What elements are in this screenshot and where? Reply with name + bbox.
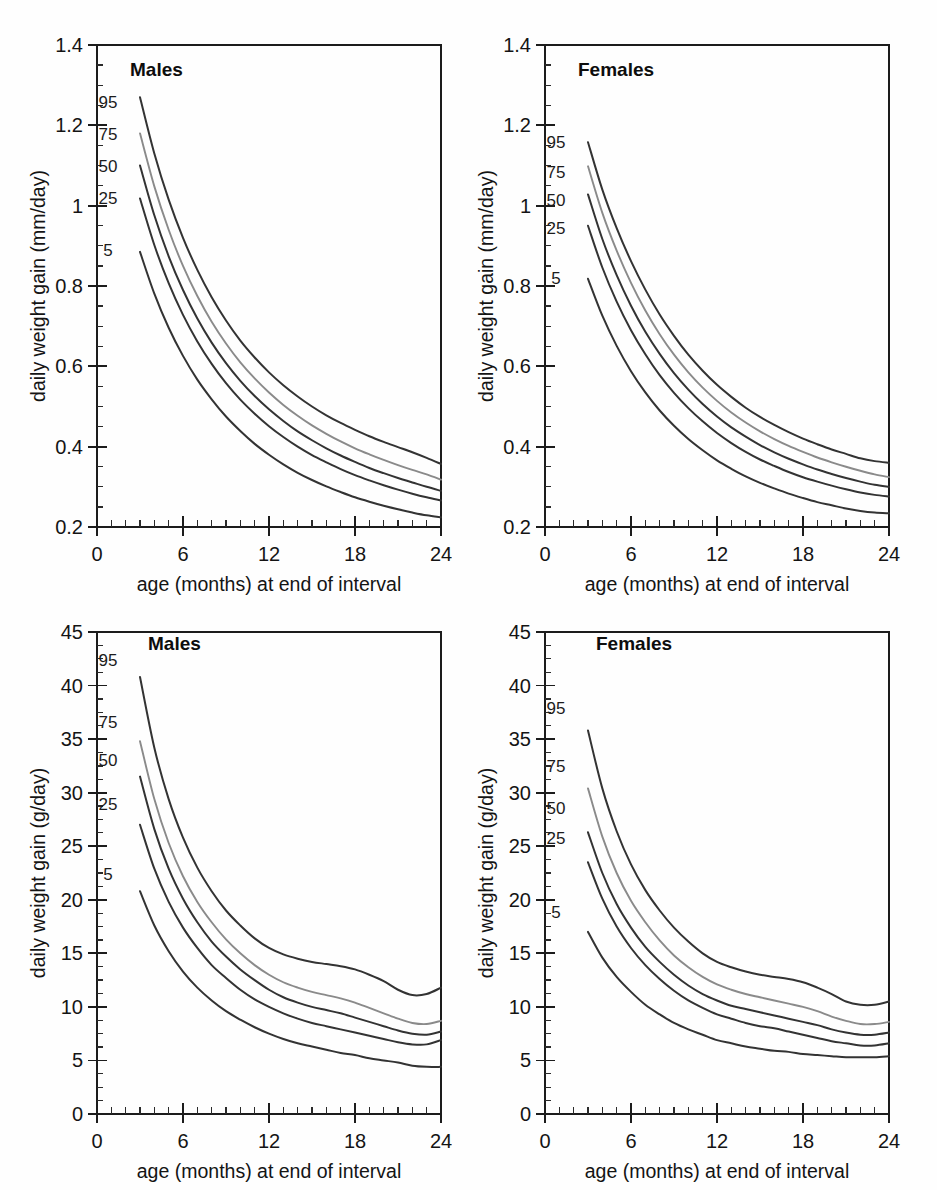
y-tick-label: 0.4 [55,436,83,458]
x-axis-major-ticks [97,1103,441,1123]
curve-label-p5: 5 [103,241,112,260]
y-tick-label: 35 [509,728,531,750]
series-line-p75 [140,741,441,1024]
y-axis-tick-labels: 051015202530354045 [61,621,83,1125]
x-axis-title: age (months) at end of interval [585,1160,849,1182]
y-axis-title: daily weight gain (mm/day) [475,170,497,402]
x-tick-label: 0 [91,543,102,565]
y-axis-tick-labels: 0.20.40.60.811.21.4 [55,34,83,538]
x-tick-label: 0 [539,1130,550,1152]
y-tick-label: 25 [509,835,531,857]
y-tick-label: 1.4 [503,34,531,56]
x-tick-label: 18 [344,1130,366,1152]
series-line-p50 [588,194,889,486]
panel-title: Females [578,59,654,80]
curve-label-p75: 75 [547,163,566,182]
curve-label-p50: 50 [547,799,566,818]
percentile-labels: 957550255 [99,93,118,260]
y-tick-label: 45 [509,621,531,643]
curve-label-p50: 50 [99,157,118,176]
y-axis-title: daily weight gain (g/day) [27,768,49,978]
x-tick-label: 24 [430,1130,452,1152]
curve-label-p95: 95 [99,93,118,112]
curve-label-p25: 25 [547,219,566,238]
x-tick-label: 6 [177,543,188,565]
y-tick-label: 5 [72,1049,83,1071]
panel-title: Males [130,59,183,80]
y-tick-label: 0.2 [503,516,531,538]
y-axis-title: daily weight gain (g/day) [475,768,497,978]
y-tick-label: 40 [509,675,531,697]
panel-title: Males [148,633,201,654]
series-line-p50 [588,832,889,1035]
series-line-p50 [140,777,441,1035]
x-axis-tick-labels: 06121824 [91,1130,452,1152]
y-tick-label: 30 [509,782,531,804]
curve-label-p50: 50 [547,191,566,210]
curve-label-p95: 95 [99,651,118,670]
y-tick-label: 0.6 [503,355,531,377]
curve-label-p75: 75 [547,757,566,776]
curve-label-p25: 25 [99,189,118,208]
y-tick-label: 0.8 [503,275,531,297]
y-tick-label: 0.2 [55,516,83,538]
y-tick-label: 5 [520,1049,531,1071]
x-tick-label: 24 [430,543,452,565]
curve-label-p25: 25 [547,829,566,848]
y-tick-label: 10 [509,996,531,1018]
x-tick-label: 18 [792,1130,814,1152]
y-tick-label: 0.6 [55,355,83,377]
series-group [140,97,441,517]
panel-title: Females [596,633,672,654]
y-tick-label: 0 [72,1103,83,1125]
y-tick-label: 1 [72,195,83,217]
curve-label-p5: 5 [103,865,112,884]
curve-label-p50: 50 [99,751,118,770]
panel-males-g-per-day: 05101520253035404506121824957550255Males… [0,588,452,1183]
y-tick-label: 15 [509,942,531,964]
x-tick-label: 6 [625,543,636,565]
curve-label-p75: 75 [99,713,118,732]
y-tick-label: 40 [61,675,83,697]
x-tick-label: 0 [539,543,550,565]
y-axis-tick-labels: 051015202530354045 [509,621,531,1125]
curve-label-p25: 25 [99,795,118,814]
x-tick-label: 24 [878,1130,900,1152]
chart-top-left: 0.20.40.60.811.21.406121824957550255Male… [0,0,452,595]
x-axis-tick-labels: 06121824 [91,543,452,565]
series-line-p95 [588,142,889,463]
y-tick-label: 1.2 [503,114,531,136]
y-tick-label: 45 [61,621,83,643]
panel-males-mm-per-day: 0.20.40.60.811.21.406121824957550255Male… [0,0,452,595]
x-tick-label: 12 [706,1130,728,1152]
series-group [588,731,889,1058]
panel-females-g-per-day: 05101520253035404506121824957550255Femal… [452,588,904,1183]
series-line-p75 [588,166,889,477]
panel-females-mm-per-day: 0.20.40.60.811.21.406121824957550255Fema… [452,0,904,595]
series-line-p25 [140,825,441,1045]
x-tick-label: 12 [258,543,280,565]
curve-label-p95: 95 [547,699,566,718]
series-line-p95 [588,731,889,1006]
series-group [588,142,889,513]
series-line-p5 [140,891,441,1067]
x-axis-title: age (months) at end of interval [137,1160,401,1182]
series-line-p75 [140,133,441,479]
x-tick-label: 12 [706,543,728,565]
y-axis-tick-labels: 0.20.40.60.811.21.4 [503,34,531,538]
chart-top-right: 0.20.40.60.811.21.406121824957550255Fema… [452,0,904,595]
y-tick-label: 0.8 [55,275,83,297]
plot-frame [97,632,441,1114]
x-axis-major-ticks [97,516,441,536]
y-tick-label: 1.4 [55,34,83,56]
series-line-p95 [140,677,441,995]
y-axis-title: daily weight gain (mm/day) [27,170,49,402]
y-tick-label: 35 [61,728,83,750]
x-tick-label: 0 [91,1130,102,1152]
x-tick-label: 24 [878,543,900,565]
curve-label-p75: 75 [99,125,118,144]
y-tick-label: 25 [61,835,83,857]
y-tick-label: 20 [509,889,531,911]
y-tick-label: 30 [61,782,83,804]
x-tick-label: 18 [792,543,814,565]
